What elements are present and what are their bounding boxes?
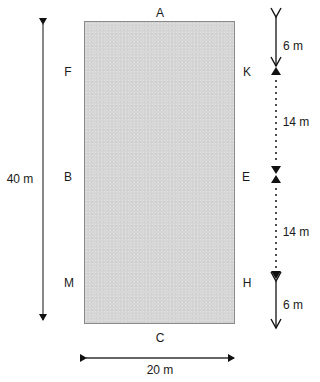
diagram-canvas: A C F B M K E H 40 m 20 m 6 m 14 m 14 m … [0, 0, 320, 382]
label-bottom-offset: 6 m [283, 299, 303, 311]
label-point-c: C [156, 332, 165, 344]
label-point-m: M [64, 277, 74, 289]
label-point-b: B [64, 171, 72, 183]
marker-e-bowtie [271, 166, 281, 183]
label-top-offset: 6 m [283, 40, 303, 52]
label-e-h-distance: 14 m [283, 226, 310, 238]
label-point-k: K [243, 66, 251, 78]
label-point-a: A [156, 7, 164, 19]
label-width: 20 m [147, 364, 174, 376]
label-k-e-distance: 14 m [283, 116, 310, 128]
marker-k-triangle [271, 67, 281, 75]
label-point-e: E [242, 171, 250, 183]
label-point-h: H [243, 277, 252, 289]
dimension-lines [0, 0, 320, 382]
marker-h-triangle [271, 271, 281, 279]
label-height: 40 m [7, 173, 34, 185]
label-point-f: F [64, 66, 71, 78]
